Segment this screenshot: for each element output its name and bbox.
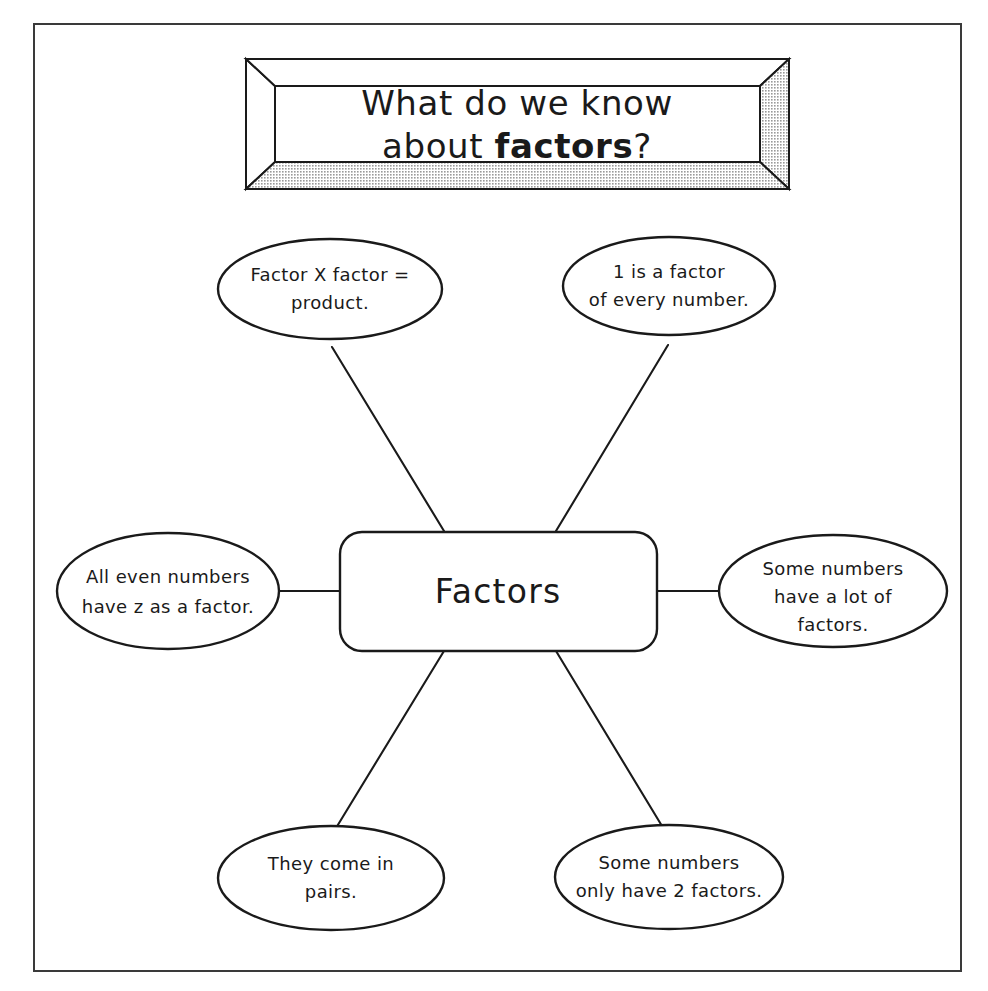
connector-top-left (332, 347, 444, 531)
title-line-2-bold: factors (495, 126, 634, 166)
bubble-line-1: Some numbers (598, 852, 739, 873)
concept-map-canvas: What do we know about factors? Factors F… (0, 0, 988, 991)
title-line-2-prefix: about (382, 126, 495, 166)
bubble-line-2: only have 2 factors. (576, 880, 763, 901)
bubble-line-1-pre: All (86, 566, 116, 587)
title-line-2-suffix: ? (633, 126, 652, 166)
bubble-even-numbers-have-two[interactable]: All even numbers have z as a factor. (57, 533, 279, 649)
bubble-some-have-many-factors[interactable]: Some numbers have a lot of factors. (719, 535, 947, 647)
bubble-line-1: All even numbers (86, 566, 250, 587)
bubble-come-in-pairs[interactable]: They come in pairs. (218, 826, 444, 930)
title-line-2: about factors? (382, 126, 652, 166)
bubble-line-2: have z as a factor. (82, 596, 254, 617)
bubble-line-1: Factor X factor = (250, 264, 409, 285)
bubble-line-1: 1 is a factor (613, 261, 725, 282)
bubble-outline[interactable] (563, 237, 775, 335)
bubble-line-2: of every number. (589, 289, 749, 310)
title-line-1: What do we know (361, 83, 673, 123)
title-frame-face-bottom (246, 162, 789, 189)
bubble-line-3: factors. (797, 614, 868, 635)
bubble-outline[interactable] (218, 239, 442, 339)
center-node[interactable]: Factors (340, 532, 657, 651)
title-frame-face-top (246, 59, 789, 86)
connector-bottom-right (556, 651, 662, 826)
worksheet-page: What do we know about factors? Factors F… (0, 0, 988, 991)
bubble-line-2: have a lot of (774, 586, 892, 607)
bubble-line-1: They come in (267, 853, 394, 874)
connector-top-right (556, 345, 668, 531)
bubble-outline[interactable] (57, 533, 279, 649)
center-node-label: Factors (435, 572, 562, 611)
bubble-one-is-a-factor[interactable]: 1 is a factor of every number. (563, 237, 775, 335)
bubble-line-1-bold: even (116, 566, 162, 587)
bubble-outline[interactable] (218, 826, 444, 930)
bubble-outline[interactable] (555, 825, 783, 929)
bubble-line-1: Some numbers (762, 558, 903, 579)
bubble-some-have-two-factors[interactable]: Some numbers only have 2 factors. (555, 825, 783, 929)
bubble-line-2: product. (291, 292, 369, 313)
bubble-line-1-post: numbers (161, 566, 250, 587)
connector-bottom-left (336, 651, 444, 828)
bubble-line-2: pairs. (305, 881, 357, 902)
bubble-factor-times-factor[interactable]: Factor X factor = product. (218, 239, 442, 339)
title-frame: What do we know about factors? (246, 59, 789, 189)
